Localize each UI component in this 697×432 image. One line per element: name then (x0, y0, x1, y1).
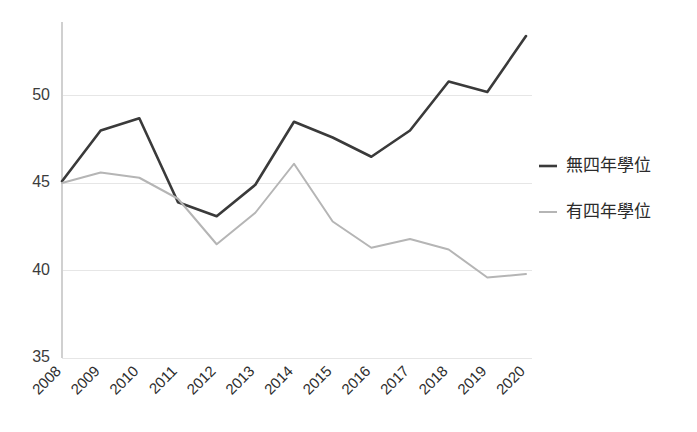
series-line-1 (62, 164, 526, 278)
x-tick-label-2012: 2012 (183, 362, 219, 398)
x-tick-label-2020: 2020 (493, 362, 529, 398)
x-tick-label-2016: 2016 (338, 362, 374, 398)
x-tick-label-2015: 2015 (299, 362, 335, 398)
x-tick-label-2009: 2009 (67, 362, 103, 398)
legend-label-0: 無四年學位 (566, 156, 651, 175)
chart-canvas: 35404550 2008200920102011201220132014201… (0, 0, 697, 432)
gridlines (62, 96, 532, 359)
y-tick-label-35: 35 (32, 348, 50, 365)
x-tick-label-2011: 2011 (145, 362, 180, 397)
x-tick-label-2017: 2017 (377, 362, 413, 398)
x-tick-label-2010: 2010 (106, 362, 142, 398)
chart-legend: 無四年學位有四年學位 (539, 156, 651, 221)
y-tick-label-50: 50 (32, 86, 50, 103)
line-chart: 35404550 2008200920102011201220132014201… (0, 0, 697, 432)
x-tick-label-2014: 2014 (261, 362, 297, 398)
x-axis-tick-labels: 2008200920102011201220132014201520162017… (29, 362, 529, 398)
legend-label-1: 有四年學位 (566, 202, 651, 221)
series-line-0 (62, 36, 526, 216)
y-axis-tick-labels: 35404550 (32, 86, 50, 366)
x-tick-label-2013: 2013 (222, 362, 258, 398)
x-tick-label-2019: 2019 (454, 362, 490, 398)
y-tick-label-45: 45 (32, 173, 50, 190)
x-tick-label-2008: 2008 (29, 362, 65, 398)
y-tick-label-40: 40 (32, 261, 50, 278)
series-lines (62, 36, 526, 278)
x-tick-label-2018: 2018 (415, 362, 451, 398)
